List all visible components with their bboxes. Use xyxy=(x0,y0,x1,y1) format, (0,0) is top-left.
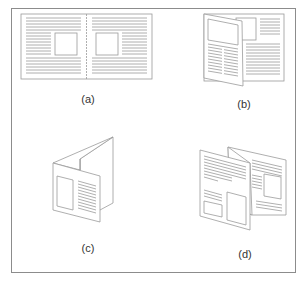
panel-d-label: (d) xyxy=(238,248,251,260)
panel-b-illustration xyxy=(204,14,284,86)
panel-c-illustration xyxy=(53,137,113,222)
panel-b-label: (b) xyxy=(237,98,250,110)
panel-c-label: (c) xyxy=(82,242,95,254)
panel-d-illustration xyxy=(200,147,286,230)
fold-diagrams xyxy=(0,0,306,283)
panel-a-illustration xyxy=(21,14,152,79)
panel-a-label: (a) xyxy=(81,93,94,105)
